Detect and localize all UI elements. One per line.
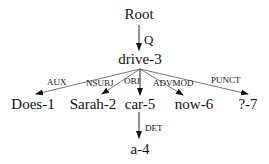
edge-obj: OBJ [124, 69, 141, 95]
edge-det: DET [139, 112, 163, 138]
dependency-tree: Q AUX NSUBJ OBJ ADVMOD PUNCT DET Root dr… [0, 0, 269, 164]
node-root: Root [124, 6, 154, 22]
edge-label-punct: PUNCT [211, 75, 241, 85]
edge-label-aux: AUX [47, 77, 67, 87]
edge-label-q: Q [144, 32, 154, 47]
node-punct-7: ?-7 [238, 96, 258, 112]
edge-label-obj: OBJ [124, 76, 141, 86]
node-now-6: now-6 [175, 96, 214, 112]
node-sarah-2: Sarah-2 [70, 96, 117, 112]
edge-label-advmod: ADVMOD [153, 78, 194, 88]
edge-q: Q [139, 25, 154, 50]
node-does-1: Does-1 [11, 96, 54, 112]
edge-label-nsubj: NSUBJ [86, 78, 114, 88]
node-drive-3: drive-3 [118, 51, 161, 67]
edge-label-det: DET [145, 123, 163, 133]
edge-advmod: ADVMOD [140, 69, 194, 95]
node-car-5: car-5 [125, 96, 156, 112]
node-a-4: a-4 [130, 141, 150, 157]
